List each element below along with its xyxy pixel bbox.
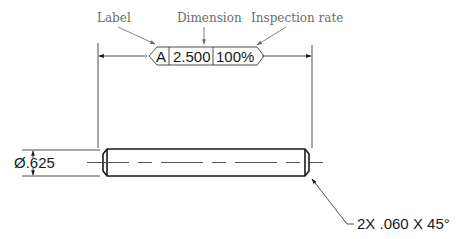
chamfer-note-text: 2X .060 X 45° xyxy=(357,215,450,232)
callout-inspection-rate-arrow xyxy=(257,27,286,45)
diameter-dimension-text: Ø.625 xyxy=(14,154,55,171)
balloon-inspection-rate: 100% xyxy=(216,48,254,65)
pin-part xyxy=(87,149,323,176)
technical-drawing: Label Dimension Inspection rate A 2.500 … xyxy=(0,0,470,239)
chamfer-leader xyxy=(312,179,354,224)
balloon-label: A xyxy=(156,48,166,65)
pin-outline xyxy=(103,149,309,176)
inspection-balloon: A 2.500 100% xyxy=(149,47,264,65)
callout-dimension-text: Dimension xyxy=(177,11,242,25)
callout-inspection-rate-text: Inspection rate xyxy=(251,11,343,25)
balloon-dimension: 2.500 xyxy=(173,48,211,65)
callout-label-text: Label xyxy=(97,11,131,25)
callout-label-arrow xyxy=(118,27,155,44)
